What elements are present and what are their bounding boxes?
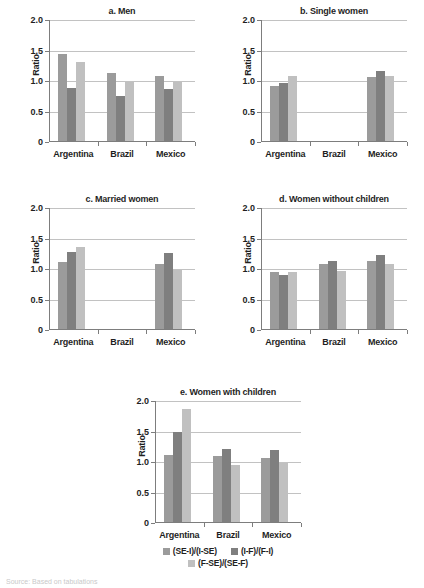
- y-tick-label: 1.5: [123, 428, 149, 437]
- y-tick-label: 1.0: [229, 77, 255, 86]
- x-tick-mark: [358, 142, 359, 146]
- x-category-label: Argentina: [49, 149, 98, 159]
- legend-label: (SE-I)/(I-SE): [173, 546, 217, 556]
- y-axis-line: [155, 401, 156, 523]
- x-category-label: Mexico: [358, 149, 407, 159]
- x-tick-mark: [358, 330, 359, 334]
- x-tick-mark: [310, 142, 311, 146]
- y-tick-mark: [257, 142, 261, 143]
- x-tick-mark: [310, 330, 311, 334]
- x-category-label: Mexico: [146, 337, 195, 347]
- y-tick-label: 0.5: [17, 296, 43, 305]
- y-tick-mark: [45, 330, 49, 331]
- x-category-label: Brazil: [204, 530, 253, 540]
- x-tick-mark: [204, 523, 205, 527]
- bar: [107, 73, 116, 141]
- bar: [270, 272, 279, 329]
- bar: [213, 456, 222, 522]
- bar: [155, 76, 164, 141]
- panel-a-men: a. Men Ratio00.51.01.52.0ArgentinaBrazil…: [2, 2, 202, 187]
- x-category-label: Mexico: [358, 337, 407, 347]
- y-tick-label: 0: [123, 519, 149, 528]
- bar: [155, 264, 164, 329]
- x-category-label: Argentina: [261, 149, 310, 159]
- y-tick-label: 1.0: [123, 458, 149, 467]
- gridline: [261, 20, 407, 21]
- plot-area: Ratio00.51.01.52.0ArgentinaBrazilMexico: [49, 208, 195, 330]
- bar: [270, 450, 279, 522]
- bar: [116, 96, 125, 141]
- figure-multi-panel-bar-charts: a. Men Ratio00.51.01.52.0ArgentinaBrazil…: [0, 0, 424, 588]
- legend-item-se-i: (SE-I)/(I-SE): [163, 546, 217, 556]
- y-axis-line: [261, 20, 262, 142]
- x-tick-mark: [407, 142, 408, 146]
- y-tick-label: 1.5: [229, 235, 255, 244]
- bar: [288, 76, 297, 141]
- bar: [279, 83, 288, 141]
- bar: [279, 463, 288, 522]
- panel-title: b. Single women: [254, 6, 414, 16]
- bar: [173, 432, 182, 522]
- plot-area: Ratio00.51.01.52.0ArgentinaBrazilMexico: [155, 401, 301, 523]
- bar: [173, 82, 182, 141]
- y-tick-label: 0.5: [17, 108, 43, 117]
- bar: [58, 262, 67, 329]
- legend-item-i-f: (I-F)/(F-I): [231, 546, 273, 556]
- source-note: Source: Based on tabulations: [6, 578, 206, 586]
- bar: [376, 71, 385, 141]
- y-tick-label: 2.0: [17, 204, 43, 213]
- bar: [367, 77, 376, 141]
- plot-area: Ratio00.51.01.52.0ArgentinaBrazilMexico: [261, 208, 407, 330]
- bar: [182, 409, 191, 522]
- bar: [328, 261, 337, 329]
- y-tick-label: 0: [229, 326, 255, 335]
- y-tick-label: 0.5: [229, 296, 255, 305]
- panel-title: a. Men: [42, 6, 202, 16]
- x-tick-mark: [301, 523, 302, 527]
- bar: [67, 252, 76, 329]
- bar: [319, 264, 328, 329]
- bar: [222, 449, 231, 522]
- panel-title: c. Married women: [42, 194, 202, 204]
- y-tick-label: 2.0: [229, 204, 255, 213]
- x-axis-line: [49, 141, 195, 142]
- x-axis-line: [155, 522, 301, 523]
- panel-c-married-women: c. Married women Ratio00.51.01.52.0Argen…: [2, 190, 202, 375]
- panel-e-women-with-children: e. Women with children Ratio00.51.01.52.…: [108, 383, 308, 568]
- x-category-label: Argentina: [261, 337, 310, 347]
- gridline: [49, 20, 195, 21]
- x-tick-mark: [98, 330, 99, 334]
- y-axis-line: [261, 208, 262, 330]
- y-tick-label: 0: [17, 138, 43, 147]
- legend-swatch-icon: [188, 560, 195, 567]
- bar: [76, 62, 85, 141]
- bar: [125, 82, 134, 141]
- bar: [164, 89, 173, 141]
- x-axis-line: [49, 329, 195, 330]
- x-tick-mark: [146, 330, 147, 334]
- x-tick-mark: [195, 330, 196, 334]
- x-category-label: Argentina: [155, 530, 204, 540]
- x-tick-mark: [98, 142, 99, 146]
- plot-area: Ratio00.51.01.52.0ArgentinaBrazilMexico: [49, 20, 195, 142]
- y-tick-label: 1.5: [17, 47, 43, 56]
- gridline: [49, 239, 195, 240]
- legend-row-2: (F-SE)/(SE-F): [108, 558, 328, 568]
- gridline: [49, 51, 195, 52]
- gridline: [261, 51, 407, 52]
- y-tick-label: 0.5: [123, 489, 149, 498]
- x-tick-mark: [195, 142, 196, 146]
- y-tick-label: 1.5: [17, 235, 43, 244]
- bar: [367, 261, 376, 329]
- gridline: [49, 208, 195, 209]
- panel-title: d. Women without children: [254, 194, 414, 204]
- bar: [58, 54, 67, 141]
- bar: [67, 88, 76, 141]
- bar: [261, 458, 270, 522]
- plot-area: Ratio00.51.01.52.0ArgentinaBrazilMexico: [261, 20, 407, 142]
- y-tick-mark: [45, 142, 49, 143]
- gridline: [261, 239, 407, 240]
- x-category-label: Brazil: [310, 337, 359, 347]
- y-tick-label: 0: [17, 326, 43, 335]
- bar: [385, 264, 394, 329]
